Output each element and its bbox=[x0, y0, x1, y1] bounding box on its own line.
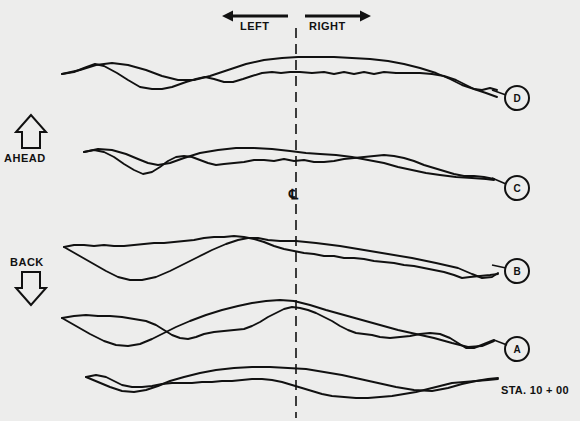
ahead-label: AHEAD bbox=[4, 152, 46, 164]
design-line-d bbox=[62, 57, 497, 97]
leader-line-c bbox=[492, 178, 506, 184]
section-marker-label-d: D bbox=[513, 93, 520, 104]
ground-line-b bbox=[64, 236, 498, 278]
cross-section-plot: DCBA bbox=[0, 0, 580, 421]
centerline-symbol: ℄ bbox=[289, 186, 298, 203]
design-line-b bbox=[64, 238, 498, 280]
back-label: BACK bbox=[10, 256, 44, 268]
design-line-a bbox=[62, 300, 494, 347]
section-marker-label-b: B bbox=[513, 266, 520, 277]
drawing-sheet: DCBA bbox=[0, 0, 580, 421]
design-line-c bbox=[84, 148, 494, 180]
section-marker-label-a: A bbox=[513, 344, 520, 355]
ground-line-d bbox=[62, 64, 497, 90]
right-direction-label: RIGHT bbox=[309, 20, 346, 32]
leader-line-d bbox=[492, 90, 506, 95]
left-direction-label: LEFT bbox=[240, 20, 270, 32]
design-line-sta bbox=[86, 367, 498, 392]
ground-line-sta bbox=[86, 375, 498, 398]
leader-line-b bbox=[492, 265, 506, 268]
station-label: STA. 10 + 00 bbox=[501, 384, 569, 396]
arrow-down-icon bbox=[16, 272, 46, 305]
arrow-up-icon bbox=[16, 115, 46, 148]
ground-line-a bbox=[62, 307, 494, 348]
section-marker-label-c: C bbox=[513, 183, 520, 194]
profile-section-c: C bbox=[84, 148, 529, 200]
profile-section-sta bbox=[86, 367, 498, 398]
